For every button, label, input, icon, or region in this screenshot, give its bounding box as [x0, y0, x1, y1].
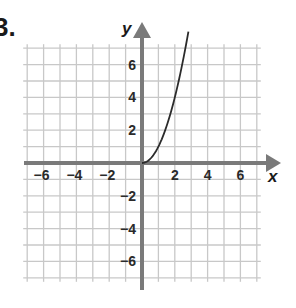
y-tick-label: −2 [120, 188, 136, 204]
x-tick-label: 2 [171, 167, 179, 183]
x-tick-label: −2 [99, 167, 115, 183]
x-tick-label: −4 [66, 167, 82, 183]
x-tick-label: −6 [34, 167, 50, 183]
x-tick-label: 4 [204, 167, 212, 183]
coordinate-plane: −6−4−2246642−2−4−6 x y [0, 0, 296, 308]
y-tick-label: 4 [128, 89, 136, 105]
x-tick-label: 6 [237, 167, 245, 183]
x-axis-label: x [267, 167, 279, 186]
y-tick-label: 2 [128, 122, 136, 138]
y-tick-label: 6 [128, 57, 136, 73]
y-axis-label: y [121, 19, 133, 38]
y-tick-label: −4 [120, 221, 136, 237]
y-tick-label: −6 [120, 253, 136, 269]
y-axis-arrow-icon [133, 22, 151, 38]
